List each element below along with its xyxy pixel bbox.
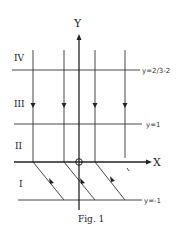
x-axis-arrow-icon xyxy=(146,160,152,165)
region-i-label: I xyxy=(19,179,23,189)
x-axis-label: X xyxy=(153,156,161,169)
region-ii-label: II xyxy=(15,141,23,151)
phase-diagram: Y X y=2/3-2 y=1 y=-1 IV III II I Fig. 1 xyxy=(0,0,185,229)
figure-caption: Fig. 1 xyxy=(78,214,104,224)
y-axis-label: Y xyxy=(73,17,82,30)
y-axis-arrow-icon xyxy=(77,34,82,40)
label-top-line: y=2/3-2 xyxy=(142,67,170,75)
region-iii-label: III xyxy=(14,99,25,109)
label-y-1: y=1 xyxy=(146,121,160,129)
region-iv-label: IV xyxy=(14,53,25,63)
label-y-minus-1: y=-1 xyxy=(144,197,161,205)
diagonal-arrow-icons xyxy=(49,176,115,184)
